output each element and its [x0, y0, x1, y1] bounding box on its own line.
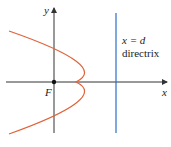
directrix-label: directrix [122, 47, 160, 59]
x-axis-label: x [161, 86, 167, 98]
directrix-equation: x = d [121, 34, 146, 46]
parabola-diagram: y x F x = d directrix [0, 0, 171, 147]
focus-label: F [44, 86, 52, 98]
y-axis-label: y [43, 4, 49, 16]
focus-point [52, 80, 56, 84]
